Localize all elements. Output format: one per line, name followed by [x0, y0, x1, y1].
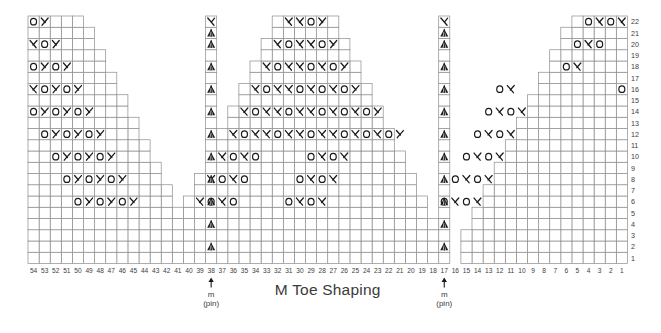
chart-cell — [572, 129, 583, 140]
chart-cell — [561, 241, 572, 252]
chart-cell — [50, 72, 61, 83]
chart-cell — [228, 140, 239, 151]
row-number: 17 — [631, 74, 639, 83]
chart-cell — [328, 27, 339, 38]
chart-cell — [95, 84, 106, 95]
chart-cell — [394, 196, 405, 207]
chart-cell — [572, 230, 583, 241]
chart-cell — [616, 95, 627, 106]
chart-cell — [317, 241, 328, 252]
chart-cell — [95, 230, 106, 241]
chart-cell — [328, 185, 339, 196]
chart-cell — [539, 241, 550, 252]
chart-cell — [61, 196, 72, 207]
chart-cell — [394, 207, 405, 218]
chart-cell — [583, 72, 594, 83]
column-number: 43 — [152, 267, 160, 274]
chart-cell — [283, 174, 294, 185]
chart-cell — [505, 207, 516, 218]
chart-cell — [50, 185, 61, 196]
chart-cell — [239, 140, 250, 151]
chart-cell — [528, 162, 539, 173]
chart-cell — [283, 106, 294, 117]
chart-cell — [539, 151, 550, 162]
chart-cell — [206, 50, 217, 61]
row-number: 12 — [631, 130, 639, 139]
column-number: 4 — [587, 267, 591, 274]
chart-cell — [283, 27, 294, 38]
chart-cell — [117, 207, 128, 218]
chart-cell — [117, 129, 128, 140]
chart-cell — [228, 151, 239, 162]
chart-cell — [72, 39, 83, 50]
chart-cell — [72, 72, 83, 83]
chart-cell — [128, 252, 139, 263]
chart-cell — [350, 241, 361, 252]
chart-cell — [128, 140, 139, 151]
chart-cell — [228, 117, 239, 128]
chart-cell — [417, 207, 428, 218]
chart-cell — [328, 151, 339, 162]
chart-cell — [539, 196, 550, 207]
chart-cell — [428, 252, 439, 263]
chart-cell — [616, 241, 627, 252]
chart-cell — [550, 61, 561, 72]
chart-cell — [139, 207, 150, 218]
chart-cell — [472, 219, 483, 230]
chart-cell — [72, 50, 83, 61]
chart-cell — [483, 252, 494, 263]
chart-cell — [472, 241, 483, 252]
chart-cell — [50, 50, 61, 61]
column-number: 35 — [241, 267, 249, 274]
chart-cell — [417, 230, 428, 241]
chart-cell — [283, 252, 294, 263]
chart-cell — [383, 230, 394, 241]
column-number: 13 — [485, 267, 493, 274]
chart-cell — [350, 185, 361, 196]
pin-label-line2: (pin) — [436, 299, 452, 308]
chart-cell — [261, 241, 272, 252]
chart-cell — [84, 95, 95, 106]
chart-cell — [306, 252, 317, 263]
chart-cell — [405, 241, 416, 252]
column-number: 8 — [542, 267, 546, 274]
chart-cell — [350, 219, 361, 230]
chart-cell — [117, 230, 128, 241]
chart-cell — [594, 140, 605, 151]
chart-cell — [394, 174, 405, 185]
chart-cell — [328, 72, 339, 83]
chart-cell — [195, 230, 206, 241]
chart-cell — [250, 219, 261, 230]
chart-cell — [250, 72, 261, 83]
chart-cell — [483, 219, 494, 230]
chart-cell — [572, 117, 583, 128]
chart-cell — [95, 252, 106, 263]
pin-marker-left: m(pin) — [203, 278, 219, 308]
chart-cell — [39, 252, 50, 263]
chart-cell — [294, 185, 305, 196]
chart-cell — [616, 151, 627, 162]
chart-cell — [439, 117, 450, 128]
chart-cell — [106, 241, 117, 252]
row-number: 13 — [631, 119, 639, 128]
chart-cell — [328, 207, 339, 218]
chart-cell — [195, 174, 206, 185]
chart-cell — [394, 241, 405, 252]
chart-cell — [605, 185, 616, 196]
chart-cell — [239, 241, 250, 252]
chart-cell — [528, 151, 539, 162]
chart-cell — [528, 95, 539, 106]
chart-cell — [339, 50, 350, 61]
chart-cell — [550, 162, 561, 173]
column-number: 45 — [130, 267, 138, 274]
column-number: 9 — [531, 267, 535, 274]
chart-cell — [616, 39, 627, 50]
chart-cell — [350, 95, 361, 106]
chart-cell — [61, 140, 72, 151]
chart-cell — [172, 207, 183, 218]
chart-cell — [261, 207, 272, 218]
chart-cell — [272, 72, 283, 83]
chart-cell — [39, 241, 50, 252]
chart-cell — [594, 185, 605, 196]
chart-cell — [394, 185, 405, 196]
